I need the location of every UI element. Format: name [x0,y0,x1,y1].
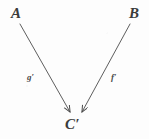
object-label-c-prime: C′ [65,117,80,132]
arrow-f-prime [82,24,130,112]
diagram-figure: A B C′ g′ f′ [0,0,149,139]
object-label-b: B [129,6,139,21]
morphism-label-f-prime: f′ [111,73,117,82]
object-label-a: A [11,6,21,21]
arrow-g-prime [20,24,70,112]
morphism-label-g-prime: g′ [27,73,34,82]
